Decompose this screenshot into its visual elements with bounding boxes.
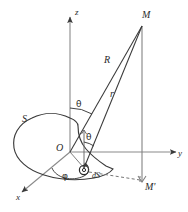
angle-label-theta-element: θ [86,133,92,142]
surface-outline [14,114,113,180]
dS-circle-inner [82,168,85,171]
distance-label-r: r [110,89,114,99]
theta-element-arc [84,142,94,146]
distance-label-R: R [104,55,110,65]
point-label-M: M [142,10,150,20]
origin-to-element-line [70,152,84,168]
surface-element-label-dS: dS [92,172,100,180]
angle-arc-theta-element [84,142,94,146]
surface-S [14,114,113,180]
angle-label-theta-origin: θ [76,100,82,109]
axis-label-z: z [75,8,79,17]
O-to-dS-line [70,152,84,168]
surface-label-S: S [22,114,27,124]
segment-R [70,26,142,152]
origin-label-O: O [56,143,63,153]
vertical-drop-line [138,26,146,182]
diagram-svg [0,0,188,212]
axis-label-x: x [16,193,20,202]
figure-canvas: z y x O M M' S dS R r θ θ φ [0,0,188,212]
point-label-Mprime: M' [145,182,155,192]
axis-label-y: y [178,149,182,158]
R-line [70,26,142,152]
angle-label-phi: φ [62,172,68,181]
